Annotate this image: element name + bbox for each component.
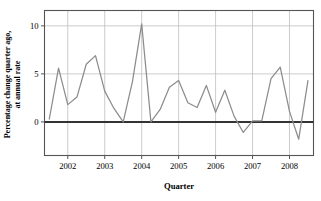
x-tick-label: 2004 <box>133 161 151 171</box>
x-axis-label: Quarter <box>44 181 314 191</box>
x-tick-label: 2002 <box>59 161 76 171</box>
x-tick-label: 2003 <box>96 161 113 171</box>
x-tick-label: 2005 <box>170 161 187 171</box>
plot-area: 0510 2002200320042005200620072008 <box>0 0 321 201</box>
x-tick-label: 2008 <box>281 161 298 171</box>
x-axis-ticks: 2002200320042005200620072008 <box>59 156 298 171</box>
x-tick-label: 2006 <box>207 161 225 171</box>
x-tick-label: 2007 <box>244 161 262 171</box>
y-tick-label: 10 <box>30 21 39 31</box>
y-tick-label: 5 <box>34 69 38 79</box>
chart-container: Percentage change quarter ago, at annual… <box>0 0 321 201</box>
y-tick-label: 0 <box>34 117 38 127</box>
y-axis-ticks: 0510 <box>30 21 45 127</box>
